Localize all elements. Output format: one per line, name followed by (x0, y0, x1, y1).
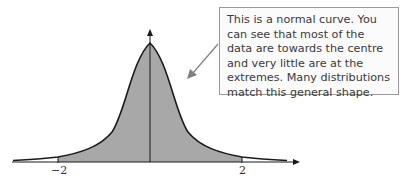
y-axis-arrow-icon (147, 29, 153, 36)
x-axis-arrow-icon (293, 159, 300, 165)
callout-box: This is a normal curve. You can see that… (219, 7, 399, 95)
callout-text: This is a normal curve. You can see that… (227, 13, 390, 99)
callout-pointer (193, 44, 218, 73)
tick-label-minus-2: −2 (51, 164, 67, 177)
tick-label-plus-2: 2 (239, 164, 246, 177)
